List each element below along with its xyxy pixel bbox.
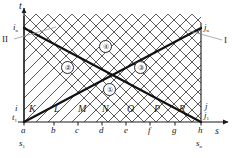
node-label-O: O — [127, 104, 134, 114]
region-marker-4: ④ — [99, 40, 112, 53]
node-label-N: N — [102, 104, 109, 114]
x-tick-label-f: f — [148, 126, 151, 135]
leader-label-I: I — [224, 36, 227, 45]
boundary-label-j-n: jn — [204, 23, 209, 32]
t-axis-label: t — [19, 1, 22, 11]
node-label-R: R — [179, 104, 185, 114]
region-marker-1: ① — [103, 83, 116, 96]
boundary-label-i: i — [15, 104, 18, 113]
region-marker-2: ② — [61, 61, 74, 74]
node-label-K: K — [29, 104, 36, 114]
diagram-canvas: t s in i t1 jn j j1 II I K L M N O P R a… — [0, 0, 236, 158]
x-range-end-label: sn — [196, 139, 202, 148]
region-marker-3: ③ — [134, 61, 147, 74]
x-tick-label-e: e — [124, 126, 128, 135]
s-axis-label: s — [215, 126, 219, 136]
leader-label-II: II — [2, 35, 8, 44]
node-label-L: L — [54, 104, 60, 114]
x-tick-label-a: a — [21, 126, 26, 135]
x-tick-label-b: b — [51, 126, 56, 135]
node-label-M: M — [78, 104, 86, 114]
x-tick-label-g: g — [172, 126, 177, 135]
x-tick-label-d: d — [99, 126, 104, 135]
boundary-label-j-1: j1 — [204, 111, 209, 120]
boundary-label-i-n: in — [13, 23, 18, 32]
node-label-P: P — [154, 104, 160, 114]
x-tick-label-c: c — [75, 126, 79, 135]
x-range-start-label: s1 — [19, 139, 25, 148]
boundary-label-t-1: t1 — [12, 113, 17, 122]
x-tick-label-h: h — [198, 126, 203, 135]
